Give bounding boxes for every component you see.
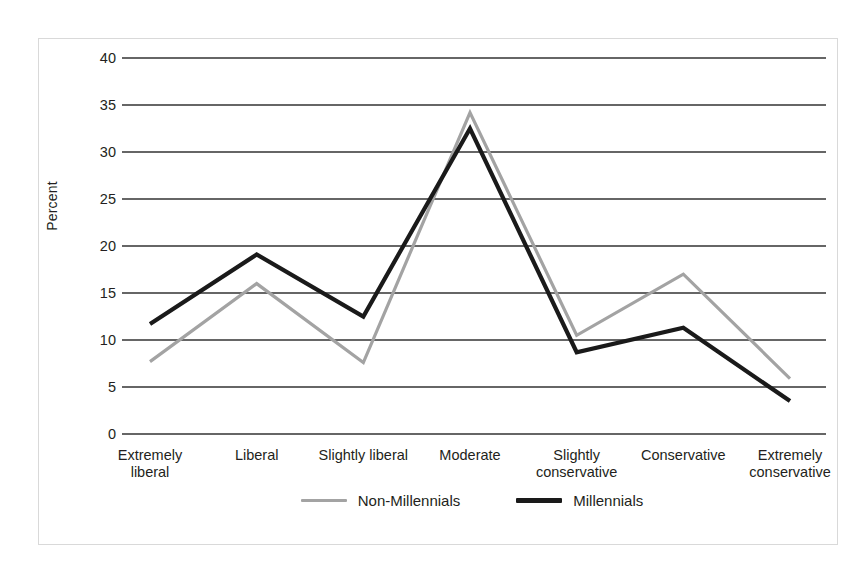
legend-label-non-millennials: Non-Millennials	[358, 492, 461, 509]
legend-item-millennials: Millennials	[516, 492, 643, 509]
y-tick-label: 20	[82, 239, 116, 254]
y-tick-label: 35	[82, 98, 116, 113]
legend-label-millennials: Millennials	[573, 492, 643, 509]
y-tick-label: 40	[82, 51, 116, 66]
y-tick-label: 25	[82, 192, 116, 207]
chart-legend: Non-Millennials Millennials	[122, 492, 822, 509]
series-lines	[150, 113, 790, 402]
y-tick-label: 15	[82, 286, 116, 301]
line-chart-plot	[0, 0, 867, 575]
y-tick-label: 10	[82, 333, 116, 348]
legend-swatch-non-millennials	[301, 499, 347, 502]
y-axis-title: Percent	[44, 141, 64, 271]
y-tick-label: 5	[82, 380, 116, 395]
series-line-millennials	[150, 129, 790, 402]
legend-swatch-millennials	[516, 498, 562, 503]
legend-item-non-millennials: Non-Millennials	[301, 492, 461, 509]
x-tick-label: Extremelyconservative	[715, 447, 865, 480]
y-tick-label: 30	[82, 145, 116, 160]
gridlines	[122, 58, 826, 434]
y-tick-label: 0	[82, 427, 116, 442]
